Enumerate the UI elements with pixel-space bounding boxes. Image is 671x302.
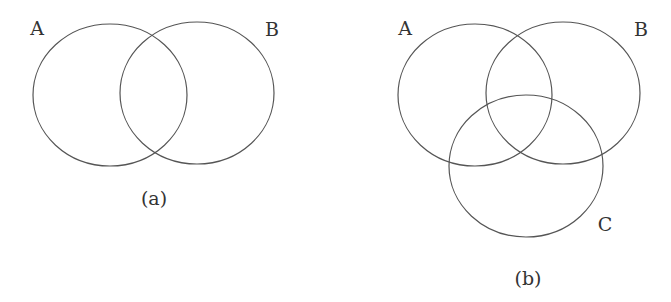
venn-diagram-b: A B C (b) [397,17,648,289]
caption-b: (b) [515,267,542,289]
caption-a: (a) [141,187,167,209]
set-c-label: C [598,213,613,235]
set-b-label: B [634,18,648,40]
set-a-label: A [29,17,44,39]
set-a-circle [33,24,187,166]
set-b-label: B [265,18,279,40]
venn-diagrams-canvas: A B (a) A B C (b) [0,0,671,302]
set-b-circle [486,22,640,164]
set-b-circle [120,22,274,164]
venn-diagram-a: A B (a) [29,17,279,209]
set-a-label: A [397,17,412,39]
